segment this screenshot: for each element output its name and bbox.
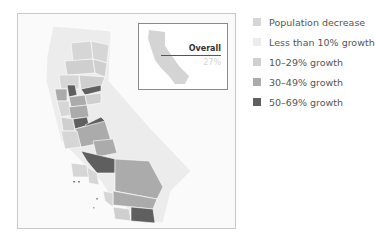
- swatch-icon: [253, 58, 261, 66]
- overall-inset: Overall 27%: [138, 23, 228, 90]
- county: [131, 207, 155, 223]
- inset-label: Overall: [189, 44, 221, 53]
- legend-label: 50–69% growth: [269, 97, 343, 108]
- map-frame: Overall 27%: [17, 13, 236, 229]
- legend-label: 30–49% growth: [269, 77, 343, 88]
- inset-divider: [161, 55, 221, 56]
- legend-label: Population decrease: [269, 17, 365, 28]
- swatch-icon: [253, 18, 261, 26]
- legend-item-30-49: 30–49% growth: [253, 72, 375, 92]
- island: [93, 207, 95, 209]
- swatch-icon: [253, 38, 261, 46]
- swatch-icon: [253, 98, 261, 106]
- county: [71, 41, 93, 61]
- county: [103, 191, 113, 207]
- legend-item-lt10: Less than 10% growth: [253, 32, 375, 52]
- county: [85, 93, 101, 105]
- county: [113, 207, 131, 221]
- legend-label: Less than 10% growth: [269, 37, 375, 48]
- legend: Population decrease Less than 10% growth…: [253, 12, 375, 112]
- california-silhouette: [139, 24, 227, 89]
- county: [65, 59, 95, 75]
- swatch-icon: [253, 78, 261, 86]
- legend-item-50-69: 50–69% growth: [253, 92, 375, 112]
- island: [78, 181, 80, 183]
- legend-item-10-29: 10–29% growth: [253, 52, 375, 72]
- island: [73, 181, 75, 183]
- county: [67, 85, 77, 97]
- legend-label: 10–29% growth: [269, 57, 343, 68]
- inset-value: 27%: [203, 58, 221, 67]
- county: [71, 163, 89, 177]
- county: [55, 89, 67, 101]
- island: [96, 198, 98, 200]
- legend-item-decrease: Population decrease: [253, 12, 375, 32]
